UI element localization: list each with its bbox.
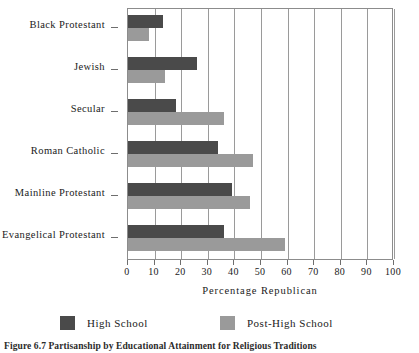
bar-group <box>128 51 392 93</box>
bar <box>128 70 165 83</box>
x-axis-tick-label: 0 <box>124 266 129 277</box>
x-axis-tick <box>393 260 394 265</box>
bar-group <box>128 177 392 219</box>
y-axis-tick <box>111 153 118 154</box>
bar <box>128 28 149 41</box>
legend-label: Post-High School <box>247 317 333 329</box>
y-axis-label: Evangelical Protestant <box>2 229 105 240</box>
x-axis-tick <box>340 260 341 265</box>
x-axis-tick-label: 70 <box>308 266 319 277</box>
bar-group <box>128 9 392 51</box>
y-axis-tick <box>111 69 118 70</box>
y-axis-label: Jewish <box>74 61 105 72</box>
x-axis-tick <box>180 260 181 265</box>
y-axis-label: Mainline Protestant <box>15 187 105 198</box>
x-axis-tick <box>260 260 261 265</box>
x-axis-tick <box>313 260 314 265</box>
y-axis-tick <box>111 195 118 196</box>
bar <box>128 112 224 125</box>
plot-area <box>127 8 393 260</box>
x-axis-tick <box>154 260 155 265</box>
x-axis-tick-label: 10 <box>148 266 159 277</box>
bar <box>128 238 285 251</box>
y-axis-label: Roman Catholic <box>31 145 105 156</box>
y-axis-tick <box>111 111 118 112</box>
x-axis-tick-labels: 0102030405060708090100 <box>127 266 393 280</box>
x-axis-tick-label: 40 <box>228 266 239 277</box>
x-axis-title: Percentage Republican <box>127 285 393 296</box>
gridline <box>394 9 395 259</box>
x-axis-tick <box>366 260 367 265</box>
x-axis-tick-label: 20 <box>175 266 186 277</box>
legend-item: High School <box>60 316 148 330</box>
bar <box>128 99 176 112</box>
bar <box>128 154 253 167</box>
bar <box>128 57 197 70</box>
bar <box>128 15 163 28</box>
bar-group <box>128 219 392 261</box>
legend-swatch-icon <box>220 316 235 330</box>
chart-legend: High SchoolPost-High School <box>60 316 360 334</box>
y-axis-tick <box>111 237 118 238</box>
x-axis-tick-label: 90 <box>361 266 372 277</box>
bar-group <box>128 93 392 135</box>
bar <box>128 225 224 238</box>
x-axis-tick-label: 50 <box>255 266 266 277</box>
x-axis-tick <box>233 260 234 265</box>
legend-label: High School <box>87 317 148 329</box>
x-axis-tick <box>207 260 208 265</box>
x-axis-tick-label: 60 <box>281 266 292 277</box>
figure-container: Black ProtestantJewishSecularRoman Catho… <box>0 0 419 353</box>
bar <box>128 196 250 209</box>
y-axis-tick <box>111 27 118 28</box>
x-axis-tick-label: 100 <box>385 266 401 277</box>
legend-swatch-icon <box>60 316 75 330</box>
bar-group <box>128 135 392 177</box>
bar <box>128 183 232 196</box>
y-axis-label: Secular <box>71 103 105 114</box>
x-axis-tick <box>127 260 128 265</box>
y-axis-label: Black Protestant <box>29 19 105 30</box>
legend-item: Post-High School <box>220 316 333 330</box>
x-axis-tick <box>287 260 288 265</box>
bar <box>128 141 218 154</box>
y-axis-labels: Black ProtestantJewishSecularRoman Catho… <box>0 8 118 260</box>
figure-caption: Figure 6.7 Partisanship by Educational A… <box>4 341 419 351</box>
x-axis-tick-label: 30 <box>201 266 212 277</box>
x-axis-tick-label: 80 <box>334 266 345 277</box>
